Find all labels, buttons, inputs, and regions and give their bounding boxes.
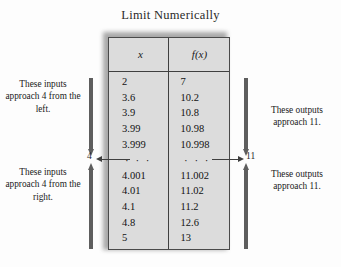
cell-x: 4.1 xyxy=(109,201,168,212)
table-header-rule xyxy=(109,71,229,72)
cell-fx: 10.98 xyxy=(168,123,229,134)
cell-x: 3.99 xyxy=(109,123,168,134)
arrow-shaft xyxy=(244,169,248,249)
cell-fx: 11.002 xyxy=(168,170,229,181)
table-row: 513 xyxy=(109,230,229,246)
limit-table: x f(x) 273.610.23.910.83.9910.983.99910.… xyxy=(108,37,230,250)
arrow-up-left-icon xyxy=(88,163,94,249)
table-row: 4.0111.02 xyxy=(109,183,229,199)
table-row: 27 xyxy=(109,74,229,90)
cell-fx: 13 xyxy=(168,232,229,243)
arrow-shaft xyxy=(89,78,93,150)
annotation-inputs-from-right: These inputs approach 4 from the right. xyxy=(2,166,84,203)
arrow-shaft xyxy=(89,169,93,249)
cell-fx: 10.2 xyxy=(168,92,229,103)
arrow-head xyxy=(243,163,249,170)
table-row: 3.610.2 xyxy=(109,90,229,106)
annotation-outputs-top: These outputs approach 11. xyxy=(255,104,339,129)
cell-x: 3.999 xyxy=(109,139,168,150)
arrow-left-limit-icon xyxy=(96,156,130,162)
cell-fx: 11.2 xyxy=(168,201,229,212)
cell-x: 4.01 xyxy=(109,185,168,196)
cell-x: 4.001 xyxy=(109,170,168,181)
output-limit-label: 11 xyxy=(246,151,255,161)
table-row: 4.00111.002 xyxy=(109,168,229,184)
arrow-head xyxy=(238,156,244,162)
annotation-outputs-bottom: These outputs approach 11. xyxy=(255,168,339,193)
arrow-up-right-icon xyxy=(243,163,249,249)
table-row: 3.99910.998 xyxy=(109,136,229,152)
arrow-shaft xyxy=(101,159,130,160)
arrow-right-limit-icon xyxy=(212,156,244,162)
input-limit-label: 4 xyxy=(87,151,92,161)
cell-x: 3.6 xyxy=(109,92,168,103)
column-header-fx: f(x) xyxy=(169,48,230,60)
cell-fx: 10.998 xyxy=(168,139,229,150)
arrow-down-right-icon xyxy=(243,78,249,156)
arrow-head xyxy=(96,156,102,162)
table-row: 4.812.6 xyxy=(109,214,229,230)
table-row: 4.111.2 xyxy=(109,199,229,215)
cell-fx: 10.8 xyxy=(168,107,229,118)
cell-fx: 7 xyxy=(168,76,229,87)
cell-fx: 12.6 xyxy=(168,217,229,228)
cell-x: 5 xyxy=(109,232,168,243)
column-header-x: x xyxy=(109,48,168,60)
arrow-shaft xyxy=(212,159,239,160)
cell-x: 3.9 xyxy=(109,107,168,118)
page-title: Limit Numerically xyxy=(0,8,341,23)
cell-fx: 11.02 xyxy=(168,185,229,196)
cell-x: 2 xyxy=(109,76,168,87)
annotation-inputs-from-left: These inputs approach 4 from the left. xyxy=(2,78,84,115)
arrow-head xyxy=(88,163,94,170)
arrow-down-left-icon xyxy=(88,78,94,156)
table-row: 3.910.8 xyxy=(109,105,229,121)
cell-x: 4.8 xyxy=(109,217,168,228)
table-row: 3.9910.98 xyxy=(109,121,229,137)
arrow-shaft xyxy=(244,78,248,150)
